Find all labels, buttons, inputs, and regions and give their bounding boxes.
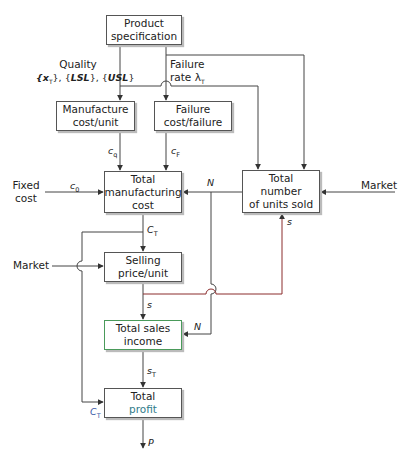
var-cf: cF xyxy=(171,145,180,159)
quality-title: Quality xyxy=(36,58,120,71)
failure-cost-line1: Failure xyxy=(176,103,211,116)
total-units-sold-box: Total number of units sold xyxy=(242,170,320,213)
selling-price-line1: Selling xyxy=(125,254,160,267)
failure-cost-line2: cost/failure xyxy=(164,116,223,129)
manufacture-cost-box: Manufacture cost/unit xyxy=(56,101,135,131)
product-specification-box: Product specification xyxy=(106,15,182,45)
total-profit-line1: Total xyxy=(131,390,156,403)
failure-cost-box: Failure cost/failure xyxy=(154,101,232,131)
fixed-cost-label: Fixed cost xyxy=(8,179,44,205)
total-mfg-line1: Total xyxy=(131,173,156,186)
units-sold-line2: number xyxy=(261,185,302,198)
var-s-units: s xyxy=(287,216,292,227)
manufacture-cost-line2: cost/unit xyxy=(73,116,119,129)
var-st: sT xyxy=(147,365,156,379)
failure-rate-label: Failure rate λT xyxy=(170,58,205,88)
failure-rate-line2: rate λT xyxy=(170,71,205,88)
product-spec-line2: specification xyxy=(111,30,177,43)
units-sold-line3: of units sold xyxy=(249,198,313,211)
var-n-bottom: N xyxy=(194,321,201,332)
quality-label: Quality {xT}, {LSL}, {USL} xyxy=(36,58,120,88)
var-s-mid: s xyxy=(147,299,152,310)
sales-income-line2: income xyxy=(124,335,162,348)
quality-params: {xT}, {LSL}, {USL} xyxy=(36,71,120,88)
var-cq: cq xyxy=(108,145,117,159)
var-n-top: N xyxy=(207,177,214,188)
total-sales-income-box: Total sales income xyxy=(104,320,182,350)
var-ct-bottom: CT xyxy=(90,406,101,420)
manufacture-cost-line1: Manufacture xyxy=(62,103,128,116)
total-manufacturing-cost-box: Total manufacturing cost xyxy=(104,171,182,213)
market-left-label: Market xyxy=(13,259,49,272)
product-spec-line1: Product xyxy=(124,17,164,30)
fixed-cost-line1: Fixed xyxy=(8,179,44,192)
total-mfg-line2: manufacturing xyxy=(104,186,181,199)
sales-income-line1: Total sales xyxy=(116,322,171,335)
failure-rate-line1: Failure xyxy=(170,58,205,71)
var-p: P xyxy=(148,437,154,448)
total-profit-box: Total profit xyxy=(104,388,182,418)
var-ct-top: CT xyxy=(147,224,158,238)
selling-price-box: Selling price/unit xyxy=(104,252,182,282)
var-c0: c0 xyxy=(70,180,79,194)
total-mfg-line3: cost xyxy=(132,199,154,212)
fixed-cost-line2: cost xyxy=(8,192,44,205)
selling-price-line2: price/unit xyxy=(118,267,168,280)
market-right-label: Market xyxy=(361,179,397,192)
units-sold-line1: Total xyxy=(269,172,294,185)
total-profit-line2: profit xyxy=(129,403,157,416)
